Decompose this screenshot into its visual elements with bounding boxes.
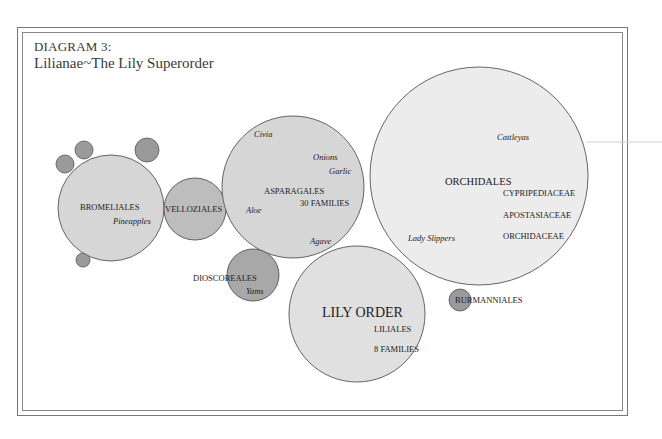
cattleyas-label: Cattleyas	[497, 133, 529, 142]
agave-label: Agave	[310, 237, 331, 246]
bromeliales-label: BROMELIALES	[80, 203, 140, 212]
asparagales-families: 30 FAMILIES	[300, 199, 349, 208]
pineapples-label: Pineapples	[113, 217, 151, 226]
orchidaceae-label: ORCHIDACEAE	[503, 232, 564, 241]
lily-order-title: LILY ORDER	[322, 306, 403, 320]
burmanniales-label: BURMANNIALES	[455, 296, 523, 305]
orchidales-label: ORCHIDALES	[445, 177, 512, 188]
civia-label: Civia	[254, 130, 272, 139]
onions-label: Onions	[313, 153, 338, 162]
satellite-circle	[75, 141, 93, 159]
asparagales-label: ASPARAGALES	[264, 187, 324, 196]
satellite-circle	[135, 138, 159, 162]
liliales-label: LILIALES	[374, 325, 411, 334]
cypripediaceae-label: CYPRIPEDIACEAE	[503, 189, 575, 198]
yams-label: Yams	[246, 287, 264, 296]
liliales-families: 8 FAMILIES	[374, 345, 419, 354]
apostasiaceae-label: APOSTASIACEAE	[503, 211, 571, 220]
lady-slippers-label: Lady Slippers	[408, 234, 455, 243]
aloe-label: Aloe	[246, 206, 262, 215]
satellite-circle	[56, 155, 74, 173]
velloziales-label: VELLOZIALES	[165, 205, 222, 214]
garlic-label: Garlic	[329, 167, 351, 176]
dioscoreales-label: DIOSCOREALES	[193, 274, 257, 283]
